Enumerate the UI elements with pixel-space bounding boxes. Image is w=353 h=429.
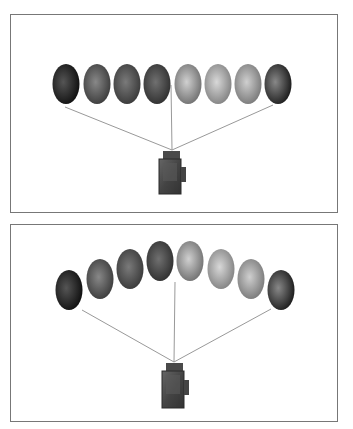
eggs-straight-row xyxy=(53,64,292,104)
egg xyxy=(144,64,171,104)
egg xyxy=(177,241,204,281)
camera-icon xyxy=(162,363,189,408)
egg xyxy=(268,270,295,310)
egg xyxy=(114,64,141,104)
egg xyxy=(53,64,80,104)
egg xyxy=(56,270,83,310)
egg xyxy=(175,64,202,104)
egg xyxy=(238,259,265,299)
camera-icon xyxy=(159,151,186,194)
diagram-canvas xyxy=(0,0,353,429)
egg xyxy=(208,249,235,289)
egg xyxy=(84,64,111,104)
egg xyxy=(265,64,292,104)
egg xyxy=(147,241,174,281)
egg xyxy=(87,259,114,299)
egg xyxy=(117,249,144,289)
egg xyxy=(205,64,232,104)
egg xyxy=(235,64,262,104)
